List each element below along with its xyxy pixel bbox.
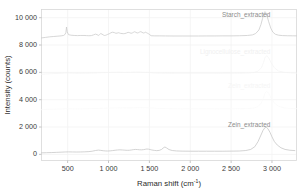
x-tick-label: 2 000 [181, 164, 199, 173]
spectrum-line [42, 56, 297, 75]
y-tick-label: 6 000 [19, 67, 37, 76]
x-tick-label: 3 000 [263, 164, 281, 173]
spectrum-line [42, 127, 295, 153]
x-tick-label: 500 [62, 164, 74, 173]
x-tick-label: 1 000 [100, 164, 118, 173]
y-tick-label: 0 [33, 149, 37, 158]
y-tick-label: 4 000 [19, 95, 37, 104]
y-axis-title: Intensity (counts) [3, 55, 12, 115]
spectrum-line [42, 91, 297, 109]
x-axis-title: Raman shift (cm-1) [137, 178, 201, 188]
series-label: Starch_extracted [222, 11, 271, 19]
series-label: Zein_extracted [228, 82, 271, 90]
series-label: Lignocellulose_extracted [200, 48, 271, 56]
x-tick-label: 2 500 [222, 164, 240, 173]
y-tick-label: 2 000 [19, 122, 37, 131]
raman-spectra-chart: 02 0004 0006 0008 00010 0005001 0001 500… [0, 0, 303, 191]
y-tick-label: 8 000 [19, 40, 37, 49]
x-tick-label: 1 500 [140, 164, 158, 173]
chart-canvas: 02 0004 0006 0008 00010 0005001 0001 500… [0, 0, 303, 191]
y-tick-label: 10 000 [15, 13, 37, 22]
series-labels: Starch_extractedLignocellulose_extracted… [200, 11, 271, 129]
series-label: Zein_extracted [228, 121, 271, 129]
